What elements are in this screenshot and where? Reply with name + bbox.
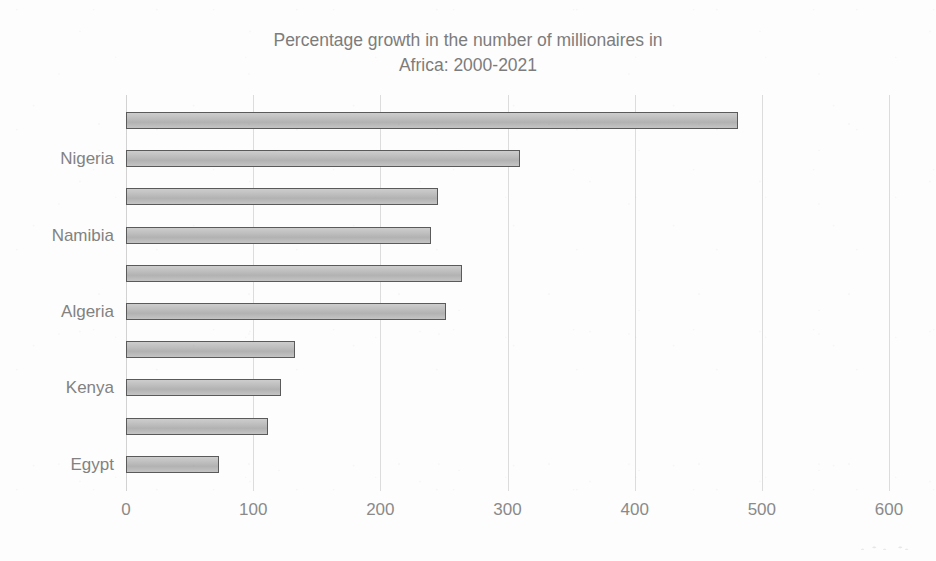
- bar: [126, 303, 446, 320]
- bar: [126, 112, 738, 129]
- category-label-egypt: Egypt: [0, 455, 114, 475]
- bar-fill: [126, 227, 431, 244]
- scan-artifact: [856, 541, 920, 557]
- gridline-500: [762, 95, 763, 491]
- plot-area: [126, 95, 889, 491]
- x-tick-500: 500: [748, 500, 776, 520]
- bar-fill: [126, 341, 295, 358]
- x-tick-400: 400: [620, 500, 648, 520]
- bar-fill: [126, 112, 738, 129]
- bar-fill: [126, 150, 520, 167]
- bar-fill: [126, 265, 462, 282]
- category-axis-labels: NigeriaNamibiaAlgeriaKenyaEgypt: [0, 95, 114, 491]
- x-tick-0: 0: [121, 500, 130, 520]
- gridline-400: [635, 95, 636, 491]
- bar-fill: [126, 303, 446, 320]
- chart-title: Percentage growth in the number of milli…: [208, 28, 728, 78]
- bar: [126, 418, 268, 435]
- category-label-kenya: Kenya: [0, 378, 114, 398]
- x-axis-tick-labels: 0100200300400500600: [126, 500, 889, 524]
- bar: [126, 341, 295, 358]
- bar-fill: [126, 379, 281, 396]
- bar: [126, 150, 520, 167]
- bar: [126, 227, 431, 244]
- bar: [126, 265, 462, 282]
- bar-fill: [126, 188, 438, 205]
- category-label-namibia: Namibia: [0, 226, 114, 246]
- bar: [126, 456, 219, 473]
- chart-page: Percentage growth in the number of milli…: [0, 0, 936, 561]
- bar-fill: [126, 418, 268, 435]
- x-tick-200: 200: [366, 500, 394, 520]
- x-tick-300: 300: [493, 500, 521, 520]
- bar: [126, 188, 438, 205]
- x-tick-600: 600: [875, 500, 903, 520]
- bar-fill: [126, 456, 219, 473]
- category-label-algeria: Algeria: [0, 302, 114, 322]
- x-tick-100: 100: [239, 500, 267, 520]
- bar: [126, 379, 281, 396]
- gridline-600: [889, 95, 890, 491]
- category-label-nigeria: Nigeria: [0, 149, 114, 169]
